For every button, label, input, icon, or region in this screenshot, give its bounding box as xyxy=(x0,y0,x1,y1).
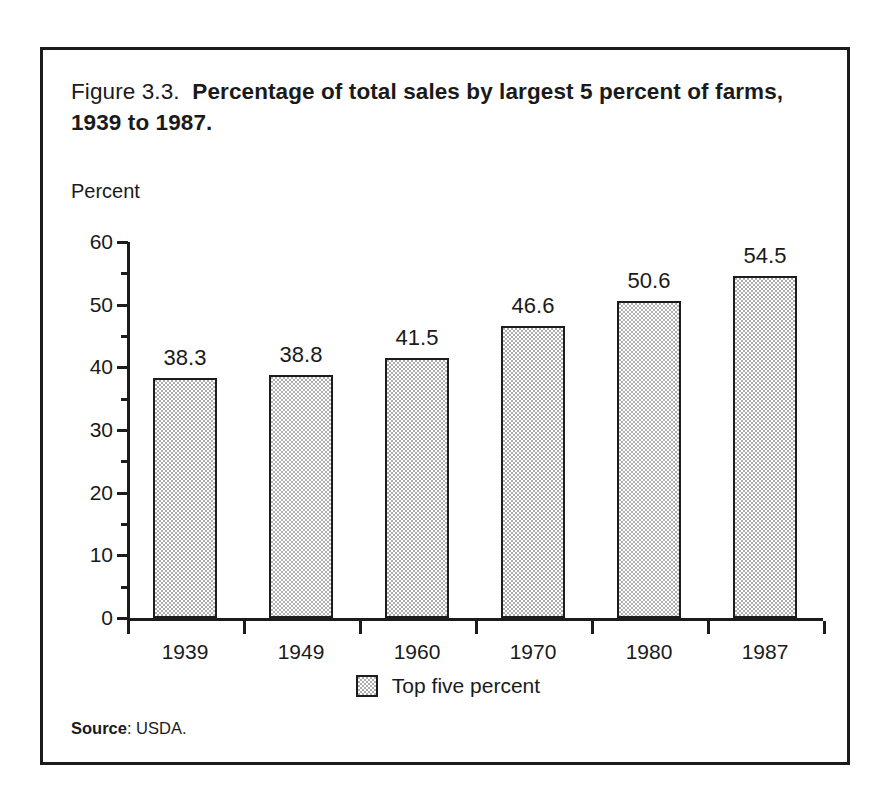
x-tick-label-1960: 1960 xyxy=(357,640,477,664)
y-tick-label: 60 xyxy=(51,231,113,252)
bar-1939 xyxy=(153,378,217,618)
x-tick-label-1970: 1970 xyxy=(473,640,593,664)
bar-1987 xyxy=(733,276,797,618)
y-tick-major xyxy=(117,554,128,557)
bar-1960 xyxy=(385,358,449,618)
x-tick xyxy=(475,621,478,634)
bar-1949 xyxy=(269,375,333,618)
bar-value-label-1960: 41.5 xyxy=(357,325,477,351)
x-tick-label-1987: 1987 xyxy=(705,640,825,664)
figure-box: Figure 3.3. Percentage of total sales by… xyxy=(40,47,850,765)
y-tick-minor xyxy=(121,523,128,526)
source-label: Source xyxy=(71,719,127,737)
legend-label-top-five-percent: Top five percent xyxy=(392,674,540,698)
y-tick-minor xyxy=(121,272,128,275)
y-tick-label: 40 xyxy=(51,356,113,377)
source-value: : USDA. xyxy=(127,719,187,737)
y-tick-major xyxy=(117,304,128,307)
x-tick xyxy=(127,621,130,634)
y-tick-label: 30 xyxy=(51,419,113,440)
y-tick-minor xyxy=(121,586,128,589)
chart-legend: Top five percent xyxy=(43,674,853,698)
x-tick-label-1980: 1980 xyxy=(589,640,709,664)
y-tick-major xyxy=(117,492,128,495)
bar-1980 xyxy=(617,301,681,618)
y-tick-label: 0 xyxy=(51,607,113,628)
x-tick xyxy=(243,621,246,634)
bar-value-label-1980: 50.6 xyxy=(589,268,709,294)
legend-swatch-top-five-percent xyxy=(356,675,378,697)
x-tick-label-1939: 1939 xyxy=(125,640,245,664)
y-axis-unit-label: Percent xyxy=(71,180,140,203)
x-tick xyxy=(823,621,826,634)
source-note: Source: USDA. xyxy=(71,719,187,738)
bar-value-label-1939: 38.3 xyxy=(125,345,245,371)
y-tick-label: 50 xyxy=(51,294,113,315)
y-tick-major xyxy=(117,617,128,620)
bar-value-label-1970: 46.6 xyxy=(473,293,593,319)
y-tick-label: 20 xyxy=(51,482,113,503)
y-tick-major xyxy=(117,429,128,432)
x-tick-label-1949: 1949 xyxy=(241,640,361,664)
y-tick-label: 10 xyxy=(51,544,113,565)
bar-1970 xyxy=(501,326,565,618)
y-tick-minor xyxy=(121,335,128,338)
bar-chart-plot-area: Percent 0102030405060 38.338.841.546.650… xyxy=(43,50,853,768)
y-tick-minor xyxy=(121,460,128,463)
x-tick xyxy=(707,621,710,634)
y-tick-minor xyxy=(121,398,128,401)
y-tick-major xyxy=(117,241,128,244)
x-tick xyxy=(359,621,362,634)
x-tick xyxy=(591,621,594,634)
bar-value-label-1949: 38.8 xyxy=(241,342,361,368)
bar-value-label-1987: 54.5 xyxy=(705,243,825,269)
